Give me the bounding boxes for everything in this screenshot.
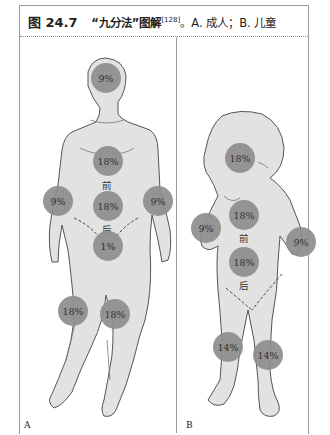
child-right-leg-zone: 14% — [213, 332, 243, 362]
adult-right-arm-zone: 9% — [43, 186, 73, 216]
adult-back-zone: 18% — [93, 191, 123, 221]
adult-right-leg-zone: 18% — [58, 296, 88, 326]
panel-label-a: A — [24, 420, 31, 430]
child-right-arm-zone: 9% — [191, 213, 221, 243]
adult-left-arm-zone: 9% — [143, 186, 173, 216]
child-chest-zone: 18% — [229, 200, 259, 230]
panel-label-b: B — [186, 420, 193, 430]
adult-head-zone: 9% — [91, 63, 121, 93]
adult-front-label: 前 — [102, 178, 112, 192]
child-back-zone: 18% — [229, 247, 259, 277]
child-left-leg-zone: 14% — [253, 340, 283, 370]
child-head-zone: 18% — [225, 143, 255, 173]
adult-chest-zone: 18% — [93, 146, 123, 176]
adult-left-leg-zone: 18% — [100, 299, 130, 329]
body-silhouettes — [0, 0, 330, 435]
child-front-label: 前 — [239, 231, 249, 245]
child-back-label: 后 — [239, 278, 249, 292]
adult-perineum-zone: 1% — [93, 231, 123, 261]
child-left-arm-zone: 9% — [286, 227, 316, 257]
